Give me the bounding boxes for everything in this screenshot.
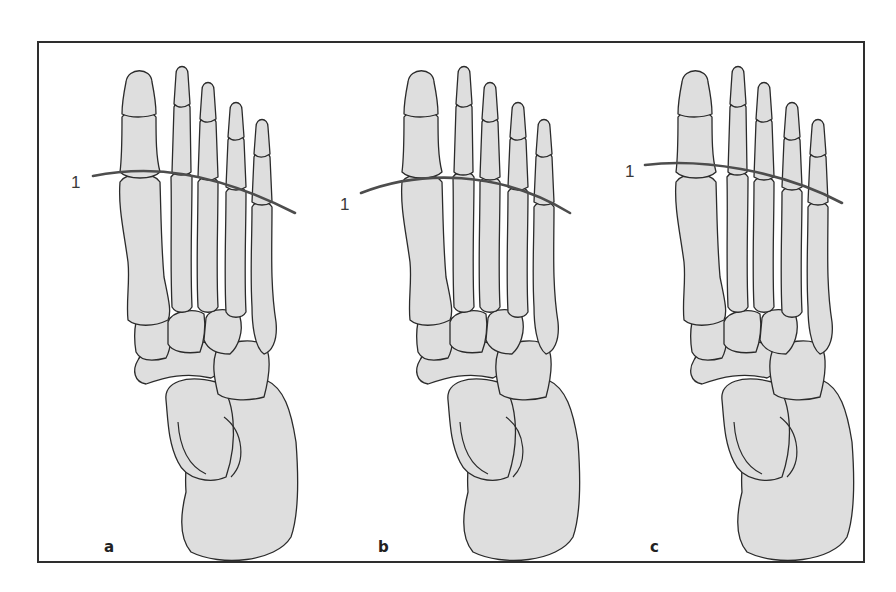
panel-label-a: a (104, 538, 114, 556)
foot-skeleton-figure: 1 a 1 b 1 c (0, 0, 896, 592)
foot-diagram-c: 1 c (625, 67, 854, 561)
panel-label-b: b (378, 538, 389, 556)
foot-diagram-b: 1 b (340, 67, 580, 561)
line-label-c: 1 (625, 162, 634, 181)
line-label-a: 1 (71, 173, 80, 192)
foot-skeleton-b (402, 67, 580, 561)
foot-skeleton-a (120, 67, 298, 561)
line-label-b: 1 (340, 195, 349, 214)
foot-skeleton-c (676, 67, 854, 561)
foot-diagram-a: 1 a (71, 67, 298, 561)
panel-label-c: c (650, 538, 659, 556)
